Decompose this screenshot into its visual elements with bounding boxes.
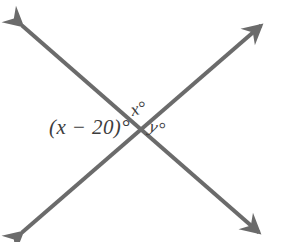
angle-label-x-minus-20: (x − 20)°	[49, 117, 130, 138]
crossing-lines-diagram	[0, 0, 282, 242]
geometry-figure: (x − 20)° x° y°	[0, 0, 282, 242]
